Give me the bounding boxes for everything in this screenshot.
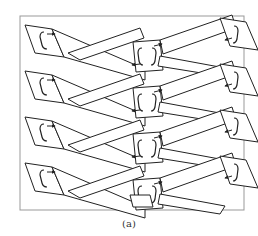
figure-caption: (a) <box>0 218 258 229</box>
woven-strip-diagram <box>0 0 258 236</box>
bottom-block <box>130 195 153 207</box>
